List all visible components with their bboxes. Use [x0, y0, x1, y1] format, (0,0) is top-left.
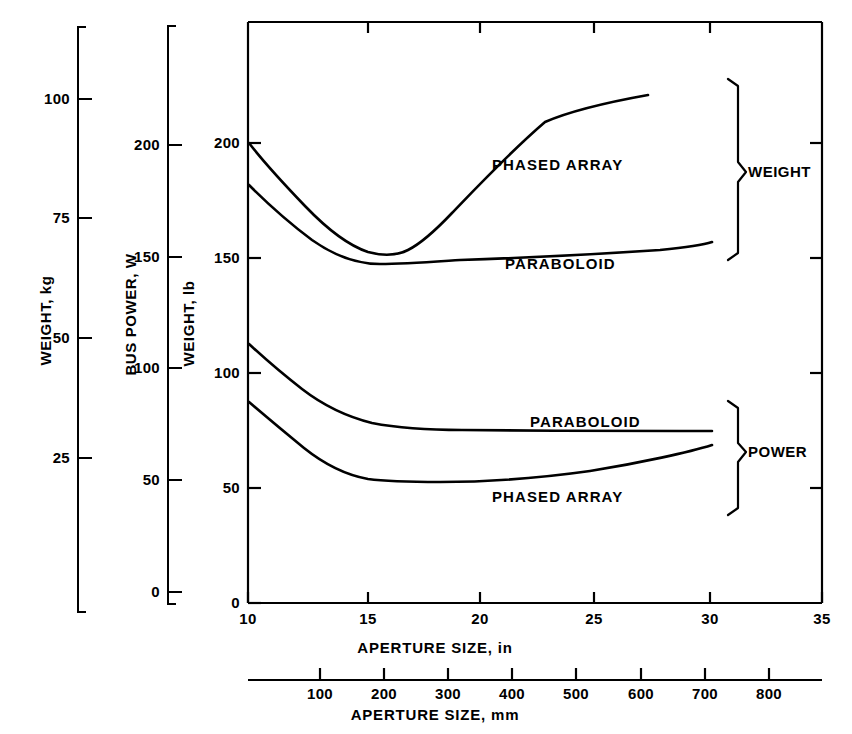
- tick-label-w-50: 50: [102, 471, 160, 488]
- bracket-weight: [728, 79, 746, 260]
- plot-frame: [248, 22, 822, 603]
- curve-label-paraboloid-weight: PARABOLOID: [505, 255, 616, 272]
- tick-label-w-100: 100: [102, 359, 160, 376]
- tick-label-in-30: 30: [690, 610, 730, 627]
- tick-label-kg-100: 100: [10, 90, 70, 107]
- group-label-power: POWER: [748, 443, 807, 460]
- tick-label-kg-75: 75: [10, 209, 70, 226]
- tick-label-kg-50: 50: [10, 329, 70, 346]
- x-axis-inches: [248, 592, 822, 603]
- tick-label-mm-300: 300: [428, 685, 468, 702]
- tick-label-mm-100: 100: [300, 685, 340, 702]
- tick-label-in-10: 10: [228, 610, 268, 627]
- x-axis-title-mm: APERTURE SIZE, mm: [335, 706, 535, 723]
- group-label-weight: WEIGHT: [748, 163, 811, 180]
- data-curves: [249, 95, 712, 482]
- curve-paraboloid-weight: [249, 185, 712, 264]
- curve-phased-array-power: [249, 402, 712, 482]
- tick-label-kg-25: 25: [10, 449, 70, 466]
- tick-label-in-15: 15: [348, 610, 388, 627]
- tick-label-lb-0: 0: [182, 594, 240, 611]
- curve-label-paraboloid-power: PARABOLOID: [530, 413, 641, 430]
- axis-weight-lb: [248, 22, 261, 603]
- tick-label-in-25: 25: [574, 610, 614, 627]
- curve-paraboloid-power: [249, 344, 712, 431]
- x-axis-mm: [248, 668, 822, 680]
- tick-label-in-35: 35: [802, 610, 842, 627]
- curve-phased-array-weight: [249, 95, 648, 255]
- figure-container: WEIGHT, kg 100 75 50 25 BUS POWER, W 200…: [0, 0, 852, 734]
- curve-label-phased-array-weight: PHASED ARRAY: [492, 156, 623, 173]
- tick-label-in-20: 20: [460, 610, 500, 627]
- x-axis-title-inches: APERTURE SIZE, in: [335, 639, 535, 656]
- bracket-power: [728, 401, 746, 515]
- tick-label-mm-400: 400: [492, 685, 532, 702]
- tick-label-mm-800: 800: [749, 685, 789, 702]
- tick-label-mm-700: 700: [685, 685, 725, 702]
- tick-label-lb-200: 200: [182, 134, 240, 151]
- tick-label-lb-150: 150: [182, 249, 240, 266]
- curve-label-phased-array-power: PHASED ARRAY: [492, 488, 623, 505]
- axis-weight-kg: [78, 27, 92, 612]
- axis-title-weight-kg: WEIGHT, kg: [37, 251, 54, 391]
- tick-label-mm-200: 200: [364, 685, 404, 702]
- tick-label-mm-600: 600: [621, 685, 661, 702]
- tick-label-lb-50: 50: [182, 479, 240, 496]
- tick-label-mm-500: 500: [556, 685, 596, 702]
- tick-label-lb-100: 100: [182, 364, 240, 381]
- tick-label-w-0: 0: [102, 583, 160, 600]
- tick-label-w-150: 150: [102, 248, 160, 265]
- tick-label-w-200: 200: [102, 136, 160, 153]
